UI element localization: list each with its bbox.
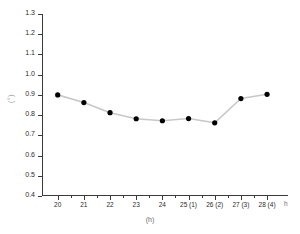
x-axis-unit-suffix: h xyxy=(284,201,288,208)
plot-area: 0.40.50.60.70.80.91.01.11.21.3 202122232… xyxy=(42,14,288,196)
x-tick-label: 25 (1) xyxy=(180,202,197,209)
x-tick-minor xyxy=(97,196,98,198)
data-point xyxy=(160,118,165,123)
y-tick-label: 1.2 xyxy=(25,29,35,36)
x-tick-label: 27 (3) xyxy=(232,202,249,209)
data-point xyxy=(81,100,86,105)
data-point xyxy=(107,110,112,115)
x-tick-minor xyxy=(123,196,124,198)
x-tick-minor xyxy=(175,196,176,198)
data-series xyxy=(42,14,288,196)
y-tick-label: 1.3 xyxy=(25,9,35,16)
data-point xyxy=(134,116,139,121)
data-point xyxy=(238,96,243,101)
x-tick xyxy=(241,196,242,200)
x-tick xyxy=(162,196,163,200)
x-tick xyxy=(267,196,268,200)
series-markers xyxy=(55,92,270,126)
data-point xyxy=(186,116,191,121)
x-tick-minor xyxy=(254,196,255,198)
data-point xyxy=(55,92,60,97)
x-tick-minor xyxy=(71,196,72,198)
x-tick-label: 20 xyxy=(54,202,61,209)
data-point xyxy=(212,120,217,125)
y-tick-label: 0.7 xyxy=(25,130,35,137)
x-tick-minor xyxy=(228,196,229,198)
y-tick-label: 0.4 xyxy=(25,191,35,198)
x-tick xyxy=(215,196,216,200)
x-tick xyxy=(110,196,111,200)
y-tick-label: 0.5 xyxy=(25,171,35,178)
x-tick-label: 24 xyxy=(159,202,166,209)
x-tick-label: 26 (2) xyxy=(206,202,223,209)
data-point xyxy=(264,92,269,97)
y-axis-title: (°) xyxy=(7,79,14,119)
x-tick-label: 22 xyxy=(106,202,113,209)
x-tick xyxy=(136,196,137,200)
x-tick xyxy=(189,196,190,200)
y-tick-label: 1.0 xyxy=(25,70,35,77)
x-tick-label: 23 xyxy=(133,202,140,209)
chart-figure: (°) 0.40.50.60.70.80.91.01.11.21.3 20212… xyxy=(0,0,300,234)
x-tick xyxy=(84,196,85,200)
x-axis-title: (h) xyxy=(0,216,300,223)
x-tick-minor xyxy=(202,196,203,198)
x-tick-minor xyxy=(149,196,150,198)
x-tick-label: 28 (4) xyxy=(259,202,276,209)
x-tick xyxy=(58,196,59,200)
x-tick-label: 21 xyxy=(80,202,87,209)
y-tick-label: 0.9 xyxy=(25,90,35,97)
y-tick-label: 0.8 xyxy=(25,110,35,117)
y-tick-label: 0.6 xyxy=(25,151,35,158)
y-tick: 0.4 xyxy=(38,196,42,197)
y-tick-label: 1.1 xyxy=(25,49,35,56)
